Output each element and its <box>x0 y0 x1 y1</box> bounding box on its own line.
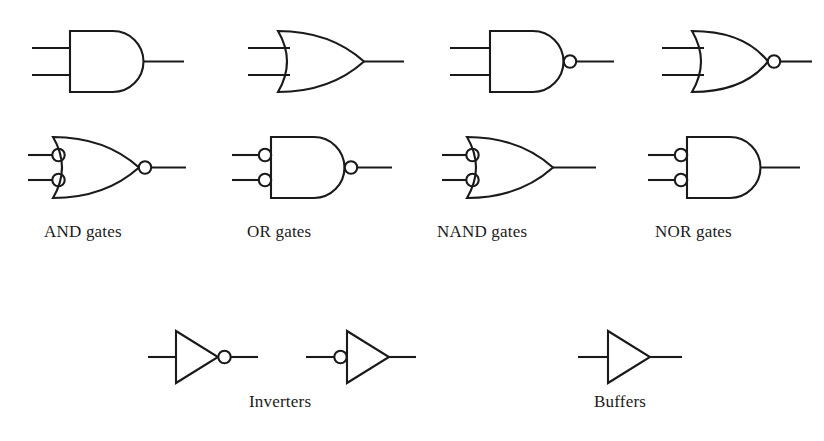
output-bubble-icon <box>768 55 780 67</box>
and-shape-body <box>490 31 563 92</box>
label-inverters: Inverters <box>249 392 311 412</box>
label-or-gates: OR gates <box>247 222 311 242</box>
inverter-input-bubble <box>306 331 416 383</box>
input-bubble-icon <box>259 149 271 161</box>
gate-and-standard <box>32 31 184 92</box>
or-shape-body <box>53 137 139 198</box>
output-bubble-icon <box>139 161 151 173</box>
or-shape-body <box>467 137 553 198</box>
and-shape-body <box>70 31 143 92</box>
gate-nor-standard <box>662 31 812 92</box>
gate-nor-equivalent <box>648 137 800 198</box>
label-nor-gates: NOR gates <box>655 222 732 242</box>
gate-or-standard <box>248 31 404 92</box>
gate-and-equivalent <box>28 137 186 198</box>
input-bubble-icon <box>675 174 687 186</box>
gate-or-equivalent <box>232 137 392 198</box>
and-shape-body <box>687 137 760 198</box>
inverter-output-bubble <box>148 331 258 383</box>
and-shape-body <box>271 137 344 198</box>
label-and-gates: AND gates <box>44 222 122 242</box>
triangle-shape-body <box>608 331 650 383</box>
logic-gate-diagram <box>0 0 824 441</box>
triangle-shape-body <box>176 331 218 383</box>
label-buffers: Buffers <box>594 392 646 412</box>
output-bubble-icon <box>345 161 357 173</box>
input-bubble-icon <box>675 149 687 161</box>
input-bubble-icon <box>334 351 346 363</box>
label-nand-gates: NAND gates <box>437 222 527 242</box>
input-bubble-icon <box>259 174 271 186</box>
or-shape-body <box>278 31 364 92</box>
or-shape-body <box>692 31 768 92</box>
output-bubble-icon <box>564 55 576 67</box>
triangle-shape-body <box>347 331 389 383</box>
output-bubble-icon <box>218 351 230 363</box>
gate-nand-standard <box>450 31 614 92</box>
buffer-symbol <box>578 331 682 383</box>
gate-nand-equivalent <box>442 137 596 198</box>
